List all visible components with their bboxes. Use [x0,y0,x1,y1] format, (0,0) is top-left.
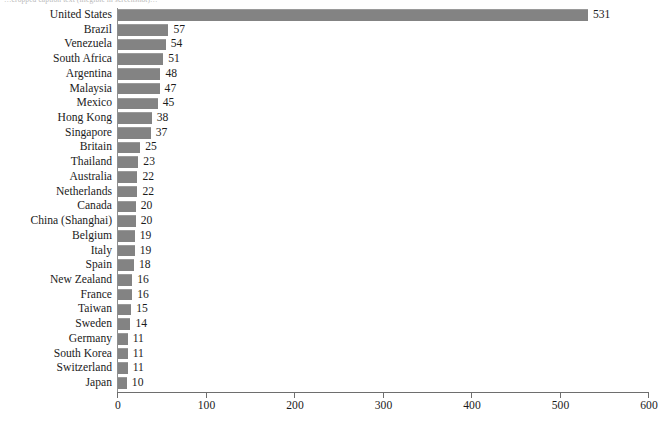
bar [118,377,127,389]
bar-category-label: Brazil [0,23,112,38]
bar-value-label: 14 [135,317,147,332]
bar-value-label: 25 [145,140,157,155]
bar [118,186,137,198]
bar [118,53,163,65]
bar-row: Sweden14 [0,317,667,332]
bar-value-label: 11 [133,361,144,376]
bar-value-label: 45 [163,96,175,111]
bar [118,215,136,227]
x-axis-tick [383,392,384,398]
bar [118,201,136,213]
bar-category-label: Switzerland [0,361,112,376]
bar-row: China (Shanghai)20 [0,214,667,229]
bar-row: Hong Kong38 [0,111,667,126]
x-axis-tick [117,392,118,398]
bar [118,171,137,183]
bar-row: South Africa51 [0,52,667,67]
bar-value-label: 22 [142,185,154,200]
x-axis-tick [471,392,472,398]
bar [118,362,128,374]
bar-category-label: South Africa [0,52,112,67]
bar-value-label: 37 [156,126,168,141]
x-axis-tick-label: 400 [449,399,495,412]
bar [118,142,140,154]
bar-row: Germany11 [0,332,667,347]
bar-category-label: South Korea [0,347,112,362]
bar [118,127,151,139]
bar-row: Switzerland11 [0,361,667,376]
bar-value-label: 54 [171,37,183,52]
bar-row: Spain18 [0,258,667,273]
bar-row: Japan10 [0,376,667,391]
bar-value-label: 20 [141,214,153,229]
bar-value-label: 16 [137,288,149,303]
bar-value-label: 10 [132,376,144,391]
bar-category-label: Germany [0,332,112,347]
bar-value-label: 11 [133,332,144,347]
x-axis-tick [294,392,295,398]
bar-row: France16 [0,288,667,303]
x-axis-tick-label: 100 [184,399,230,412]
bar-category-label: Italy [0,244,112,259]
bar-category-label: Malaysia [0,82,112,97]
bar-category-label: Britain [0,140,112,155]
bar-row: Malaysia47 [0,82,667,97]
bar-value-label: 51 [168,52,180,67]
bar-value-label: 48 [165,67,177,82]
bar-category-label: United States [0,8,112,23]
x-axis-tick-label: 0 [95,399,141,412]
bar-row: Canada20 [0,199,667,214]
bar [118,348,128,360]
bar [118,304,131,316]
bar [118,39,166,51]
bar-row: Taiwan15 [0,302,667,317]
bar [118,98,158,110]
bar [118,333,128,345]
bar-category-label: Mexico [0,96,112,111]
bar-category-label: Australia [0,170,112,185]
bar [118,230,135,242]
x-axis-tick-label: 300 [361,399,407,412]
bar-category-label: Hong Kong [0,111,112,126]
x-axis-tick [560,392,561,398]
bar-category-label: New Zealand [0,273,112,288]
bar-row: Mexico45 [0,96,667,111]
bar-row: South Korea11 [0,347,667,362]
bar-category-label: China (Shanghai) [0,214,112,229]
bar-row: Venezuela54 [0,37,667,52]
bar-category-label: Thailand [0,155,112,170]
bar-category-label: Singapore [0,126,112,141]
bar-value-label: 57 [173,23,185,38]
bar-value-label: 11 [133,347,144,362]
bar-row: Singapore37 [0,126,667,141]
bar [118,9,588,21]
bar-row: Netherlands22 [0,185,667,200]
bar [118,112,152,124]
bar-rows-container: United States531Brazil57Venezuela54South… [0,8,667,391]
bar-category-label: Taiwan [0,302,112,317]
bar-category-label: Spain [0,258,112,273]
bar-value-label: 18 [139,258,151,273]
bar-row: Argentina48 [0,67,667,82]
bar [118,245,135,257]
bar-value-label: 16 [137,273,149,288]
bar-category-label: Netherlands [0,185,112,200]
x-axis-tick [206,392,207,398]
bar-category-label: Venezuela [0,37,112,52]
bar-value-label: 22 [142,170,154,185]
bar-value-label: 15 [136,302,148,317]
bar-value-label: 23 [143,155,155,170]
bar [118,274,132,286]
bar [118,156,138,168]
bar-row: Brazil57 [0,23,667,38]
bar-category-label: Sweden [0,317,112,332]
bar-value-label: 19 [140,244,152,259]
bar-category-label: France [0,288,112,303]
x-axis-tick-label: 200 [272,399,318,412]
bar-row: Thailand23 [0,155,667,170]
bar-row: Australia22 [0,170,667,185]
x-axis-tick [648,392,649,398]
bar-value-label: 531 [593,8,610,23]
bar-row: Italy19 [0,244,667,259]
y-axis-line [117,8,118,393]
